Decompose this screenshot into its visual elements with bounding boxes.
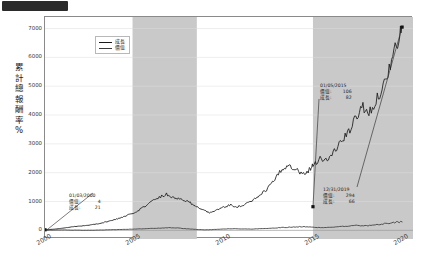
legend-label: 價值: [115, 45, 125, 52]
annotation-key: 成長:: [320, 95, 332, 101]
y-axis-tick-label: 2000: [18, 169, 42, 175]
y-axis-tick-label: 0: [18, 226, 42, 232]
annotation-2000: 01/03/2000價值:4成長:21: [69, 193, 101, 212]
shaded-band: [313, 17, 413, 239]
recession-shaded-bands: [133, 17, 413, 239]
legend-line-swatch: [99, 48, 112, 49]
data-point-marker: [401, 25, 404, 28]
annotation-row: 成長:21: [69, 205, 101, 211]
y-axis-tick-labels: 01000200030004000500060007000: [16, 16, 42, 238]
y-axis-tick-label: 6000: [18, 53, 42, 59]
legend-line-swatch: [99, 42, 112, 43]
annotation-2019: 12/31/2019價值:294成長:66: [323, 187, 355, 206]
title-bar-artifact: [2, 1, 68, 11]
y-axis-tick-label: 1000: [18, 198, 42, 204]
data-point-marker: [45, 228, 47, 231]
plot-area: 成長價值 01/03/2000價值:4成長:21 01/05/2015價值:10…: [44, 16, 412, 238]
chart-figure: 累計總報酬率% 01000200030004000500060007000 成長…: [0, 0, 429, 277]
y-axis-tick-label: 7000: [18, 25, 42, 31]
annotation-row: 成長:66: [323, 199, 355, 205]
annotation-key: 成長:: [323, 199, 335, 205]
y-axis-tick-label: 5000: [18, 82, 42, 88]
shaded-band: [133, 17, 197, 239]
annotation-row: 成長:82: [320, 95, 352, 101]
legend-item[interactable]: 價值: [99, 45, 125, 51]
x-axis-tick-labels: 20002005201020152020: [44, 238, 412, 268]
annotation-value: 21: [85, 205, 101, 211]
chart-legend[interactable]: 成長價值: [95, 36, 130, 54]
annotation-key: 成長:: [69, 205, 81, 211]
annotation-value: 66: [339, 199, 355, 205]
y-axis-tick-label: 4000: [18, 111, 42, 117]
data-point-marker: [311, 205, 314, 208]
y-axis-tick-label: 3000: [18, 140, 42, 146]
annotation-value: 82: [336, 95, 352, 101]
annotation-2015: 01/05/2015價值:106成長:82: [320, 83, 352, 102]
